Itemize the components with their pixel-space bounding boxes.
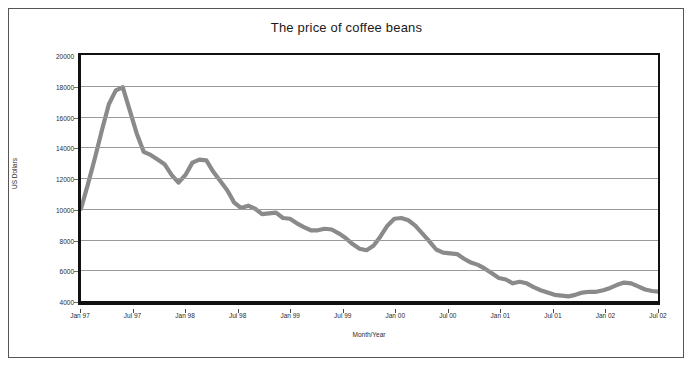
y-axis-tick-label: 14000 [34,145,74,152]
y-axis-tick-label: 18000 [34,83,74,90]
x-axis-tick-label: Jul 01 [544,312,561,319]
y-axis-tick-label: 20000 [34,53,74,60]
x-axis-tick-label: Jan 01 [491,312,511,319]
y-axis-tick-label: 12000 [34,176,74,183]
y-axis-tick-labels: 2000018000160001400012000100008000600040… [30,53,74,305]
gridline [81,86,658,87]
y-axis-tick-label: 6000 [34,268,74,275]
x-axis-title: Month/Year [78,331,660,338]
gridline [81,270,658,271]
x-axis-tick-label: Jan 02 [596,312,616,319]
x-axis-tick-label: Jul 99 [334,312,351,319]
y-axis-title: US Dollars [11,129,18,219]
y-axis-tick-label: 16000 [34,114,74,121]
y-axis-tick-label: 4000 [34,299,74,306]
x-axis-tick-labels: Jan 97Jul 97Jan 98Jul 98Jan 99Jul 99Jan … [78,312,660,324]
plot-inner [81,55,658,301]
y-axis-tick-label: 10000 [34,206,74,213]
x-axis-tick-label: Jul 97 [124,312,141,319]
x-axis-tick-label: Jan 98 [175,312,195,319]
plot-area [78,53,660,305]
gridline [81,147,658,148]
x-axis-tick-label: Jul 00 [439,312,456,319]
chart-figure: The price of coffee beans 20000180001600… [0,0,693,367]
x-axis-tick-label: Jul 98 [229,312,246,319]
gridline [81,240,658,241]
x-axis-tick-label: Jul 02 [649,312,666,319]
y-axis-tick-label: 8000 [34,237,74,244]
gridline [81,209,658,210]
gridline [81,117,658,118]
x-axis-tick-label: Jan 00 [386,312,406,319]
gridline [81,178,658,179]
x-axis-tick-label: Jan 99 [280,312,300,319]
x-axis-tick-label: Jan 97 [70,312,90,319]
chart-title: The price of coffee beans [0,20,693,35]
